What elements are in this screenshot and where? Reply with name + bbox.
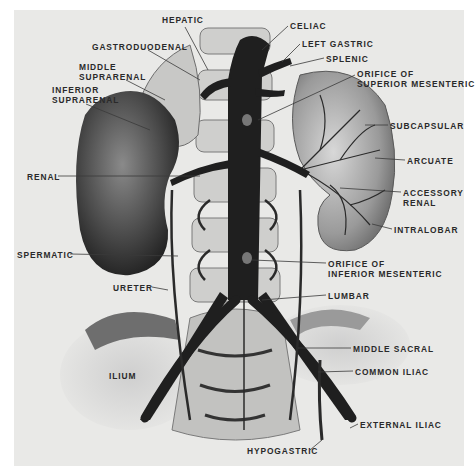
- label-text: INTRALOBAR: [394, 225, 458, 235]
- label-text: ILIUM: [109, 371, 136, 381]
- label-spermatic: SPERMATIC: [17, 250, 74, 260]
- label-subcapsular: SUBCAPSULAR: [390, 121, 464, 131]
- label-inferior-suprarenal: INFERIORSUPRARENAL: [52, 85, 119, 105]
- label-text: MIDDLE: [79, 62, 146, 72]
- label-text: ACCESSORY: [403, 188, 464, 198]
- label-text: SUPRARENAL: [79, 72, 146, 82]
- label-external-iliac: EXTERNAL ILIAC: [360, 420, 442, 430]
- label-text: SPLENIC: [326, 54, 369, 64]
- kidney-left: [76, 91, 179, 275]
- label-text: ARCUATE: [407, 156, 454, 166]
- label-text: EXTERNAL ILIAC: [360, 420, 442, 430]
- label-lumbar: LUMBAR: [328, 291, 370, 301]
- label-hepatic: HEPATIC: [162, 15, 204, 25]
- label-text: INFERIOR: [52, 85, 119, 95]
- leader-external-iliac: [350, 424, 358, 428]
- label-text: CELIAC: [290, 21, 327, 31]
- label-hypogastric: HYPOGASTRIC: [247, 446, 318, 456]
- label-text: RENAL: [403, 198, 464, 208]
- kidney-right: [293, 71, 395, 250]
- label-text: GASTRODUODENAL: [92, 42, 188, 52]
- label-ureter: URETER: [113, 283, 153, 293]
- label-text: LEFT GASTRIC: [302, 39, 374, 49]
- label-splenic: SPLENIC: [326, 54, 369, 64]
- label-common-iliac: COMMON ILIAC: [355, 367, 429, 377]
- label-text: SUBCAPSULAR: [390, 121, 464, 131]
- label-text: HYPOGASTRIC: [247, 446, 318, 456]
- leader-left-gastric: [282, 44, 300, 62]
- label-middle-sacral: MIDDLE SACRAL: [353, 344, 434, 354]
- leader-ureter: [152, 287, 168, 290]
- label-text: ORIFICE OF: [328, 259, 442, 269]
- label-arcuate: ARCUATE: [407, 156, 454, 166]
- label-renal: RENAL: [27, 172, 60, 182]
- label-gastroduodenal: GASTRODUODENAL: [92, 42, 188, 52]
- label-middle-suprarenal: MIDDLESUPRARENAL: [79, 62, 146, 82]
- label-orifice-superior-mesenteric: ORIFICE OFSUPERIOR MESENTERIC: [357, 69, 475, 89]
- label-text: ORIFICE OF: [357, 69, 475, 79]
- label-intralobar: INTRALOBAR: [394, 225, 458, 235]
- label-text: MIDDLE SACRAL: [353, 344, 434, 354]
- label-text: SUPRARENAL: [52, 95, 119, 105]
- label-text: INFERIOR MESENTERIC: [328, 269, 442, 279]
- label-ilium: ILIUM: [109, 371, 136, 381]
- label-text: COMMON ILIAC: [355, 367, 429, 377]
- label-orifice-inferior-mesenteric: ORIFICE OFINFERIOR MESENTERIC: [328, 259, 442, 279]
- label-text: RENAL: [27, 172, 60, 182]
- leader-splenic: [290, 58, 324, 66]
- label-left-gastric: LEFT GASTRIC: [302, 39, 374, 49]
- label-celiac: CELIAC: [290, 21, 327, 31]
- label-text: SPERMATIC: [17, 250, 74, 260]
- leader-orifice-inferior-mesenteric: [252, 260, 326, 263]
- label-text: SUPERIOR MESENTERIC: [357, 79, 475, 89]
- label-text: URETER: [113, 283, 153, 293]
- label-text: HEPATIC: [162, 15, 204, 25]
- label-accessory-renal: ACCESSORYRENAL: [403, 188, 464, 208]
- label-text: LUMBAR: [328, 291, 370, 301]
